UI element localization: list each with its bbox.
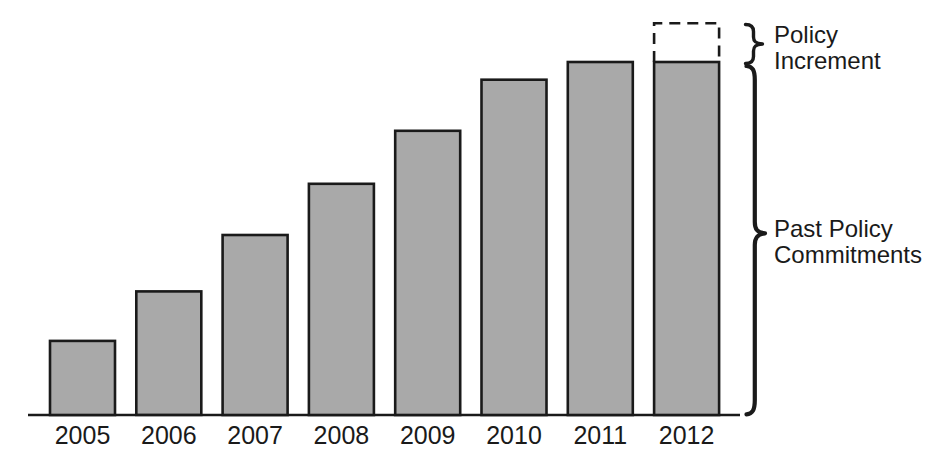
bar-2005 <box>50 341 115 415</box>
past-policy-brace-icon <box>747 66 766 414</box>
chart-canvas: 20052006200720082009201020112012 Policy … <box>0 0 941 470</box>
past-policy-label-line2: Commitments <box>774 241 922 268</box>
policy-increment-dashed-box <box>654 23 719 62</box>
x-tick-label-2010: 2010 <box>486 421 542 449</box>
bar-2009 <box>395 131 460 415</box>
x-tick-label-2012: 2012 <box>659 421 715 449</box>
bar-2011 <box>568 62 633 415</box>
bar-2006 <box>136 291 201 415</box>
policy-increment-label-line1: Policy <box>774 21 838 48</box>
policy-increment-brace-icon <box>746 25 763 64</box>
bar-2008 <box>309 184 374 415</box>
x-tick-label-2005: 2005 <box>55 421 111 449</box>
policy-increment-bar-chart: 20052006200720082009201020112012 Policy … <box>0 0 941 470</box>
bar-2010 <box>482 80 547 415</box>
policy-increment-label-line2: Increment <box>774 47 881 74</box>
x-tick-label-2011: 2011 <box>573 421 627 449</box>
x-tick-label-2008: 2008 <box>314 421 370 449</box>
x-tick-label-2009: 2009 <box>400 421 456 449</box>
x-tick-label-2007: 2007 <box>227 421 283 449</box>
bar-2012 <box>654 62 719 415</box>
x-tick-label-2006: 2006 <box>141 421 197 449</box>
bar-2007 <box>223 235 288 415</box>
x-axis-labels: 20052006200720082009201020112012 <box>55 421 715 449</box>
bars-layer <box>50 23 719 415</box>
past-policy-label-line1: Past Policy <box>774 215 893 242</box>
